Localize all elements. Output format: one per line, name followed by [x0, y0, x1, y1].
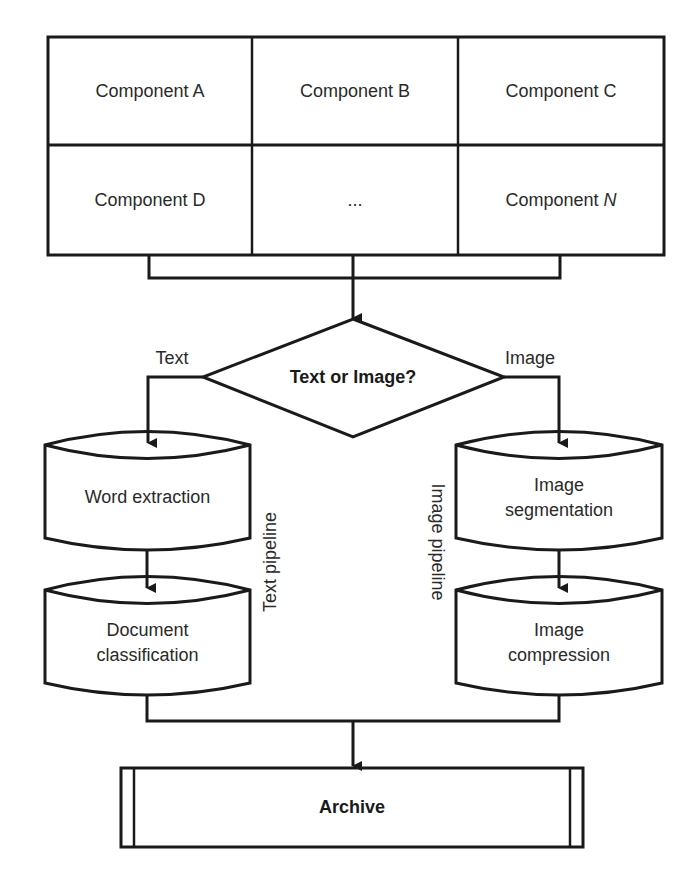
image-segmentation-label: Image segmentation — [456, 460, 662, 535]
component-n: Component N — [458, 145, 664, 255]
component-n-label: Component N — [505, 190, 616, 211]
image-compression-line1: Image — [534, 618, 584, 643]
archive-label: Archive — [134, 768, 570, 847]
image-compression-label: Image compression — [456, 605, 662, 680]
word-extraction-label: Word extraction — [45, 460, 250, 535]
component-a: Component A — [48, 37, 252, 145]
word-extraction-text: Word extraction — [85, 485, 211, 510]
component-a-label: Component A — [95, 81, 204, 102]
image-segmentation-line1: Image — [534, 473, 584, 498]
text-pipeline-label: Text pipeline — [259, 502, 281, 622]
component-c-label: Component C — [505, 81, 616, 102]
decision-label: Text or Image? — [253, 366, 453, 388]
component-c: Component C — [458, 37, 664, 145]
image-compression-line2: compression — [508, 643, 610, 668]
component-d-label: Component D — [94, 190, 205, 211]
component-n-italic: N — [604, 190, 617, 210]
image-pipeline-label: Image pipeline — [427, 475, 449, 609]
image-branch-label: Image — [500, 347, 560, 369]
grid-connector — [149, 255, 560, 318]
component-ellipsis-label: ... — [347, 190, 362, 211]
document-classification-line1: Document — [106, 618, 188, 643]
component-ellipsis: ... — [252, 145, 458, 255]
component-b-label: Component B — [300, 81, 410, 102]
text-branch-label: Text — [150, 347, 194, 369]
component-b: Component B — [252, 37, 458, 145]
component-d: Component D — [48, 145, 252, 255]
document-classification-label: Document classification — [45, 605, 250, 680]
image-segmentation-line2: segmentation — [505, 498, 613, 523]
document-classification-line2: classification — [96, 643, 198, 668]
merge-connector — [147, 695, 559, 766]
